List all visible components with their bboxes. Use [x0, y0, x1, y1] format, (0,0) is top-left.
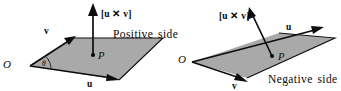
angle-label-positive: θ [42, 60, 46, 68]
cross-product-figure: [u ✕ v] Positive side O v u P θ [u ✕ v] … [0, 0, 341, 91]
origin-label-negative: O [178, 54, 186, 65]
panel-negative [192, 7, 335, 82]
point-label-negative: P [278, 52, 284, 63]
vector-u-label-positive: u [87, 80, 92, 90]
side-label-positive: Positive side [113, 29, 178, 41]
point-label-positive: P [98, 51, 104, 62]
cross-product-label-negative: [u ✕ v] [219, 12, 250, 22]
cross-product-label-positive: [u ✕ v] [101, 10, 132, 20]
plane-parallelogram-positive [30, 38, 163, 80]
vector-u-label-negative: u [286, 23, 291, 33]
side-label-negative: Negative side [268, 74, 338, 86]
normal-vector-arrowhead-positive [88, 3, 98, 16]
point-p-dot-positive [91, 53, 95, 57]
vector-v-label-negative: v [232, 82, 237, 91]
point-p-dot-negative [270, 54, 274, 58]
vector-v-label-positive: v [44, 27, 49, 37]
panel-positive [30, 3, 163, 81]
origin-label-positive: O [3, 59, 11, 70]
vector-u-arrowhead-negative [311, 26, 324, 34]
